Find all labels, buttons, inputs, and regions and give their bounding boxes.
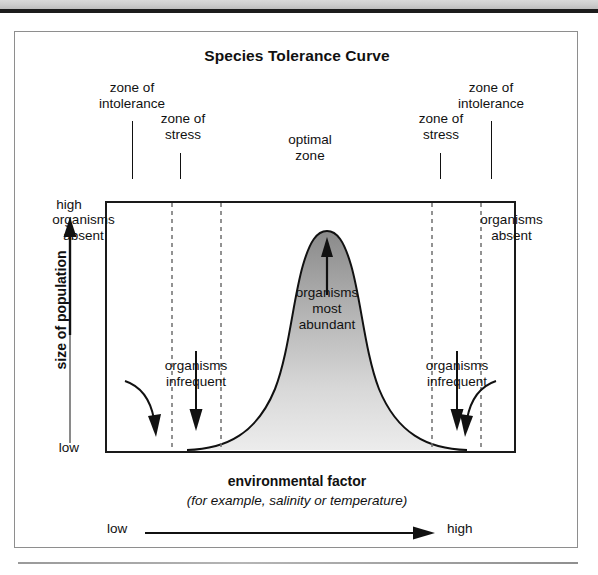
callout-zone-intolerance-right: zone of intolerance [436, 80, 546, 112]
annotation-organisms-most-abundant: organisms most abundant [267, 285, 387, 334]
y-axis-title: size of population [53, 230, 69, 390]
annotation-line: most [267, 301, 387, 317]
annotation-organisms-absent-right: organisms absent [459, 212, 564, 244]
callout-line: intolerance [436, 96, 546, 112]
callout-optimal-zone: optimal zone [255, 132, 365, 164]
x-axis-high-label: high [447, 521, 473, 536]
callout-line: zone of [128, 111, 238, 127]
annotation-line: organisms [459, 212, 564, 228]
plot-area: organisms most abundant organisms infreq… [105, 201, 516, 453]
callout-line: intolerance [77, 96, 187, 112]
callout-line: zone of [77, 80, 187, 96]
callout-line: stress [386, 127, 496, 143]
annotation-line: organisms [397, 358, 516, 374]
leader-line-stress-left [180, 153, 181, 179]
x-axis-subtitle: (for example, salinity or temperature) [15, 493, 579, 508]
annotation-organisms-absent-left: organisms absent [31, 212, 136, 244]
x-axis-arrow-icon [145, 524, 437, 542]
figure-container: Species Tolerance Curve zone of intolera… [14, 31, 578, 548]
annotation-organisms-infrequent-right: organisms infrequent [397, 358, 516, 390]
annotation-line: infrequent [397, 374, 516, 390]
x-axis-low-label: low [107, 521, 127, 536]
callout-line: optimal [255, 132, 365, 148]
x-axis-scale: low high [15, 521, 579, 545]
callout-line: stress [128, 127, 238, 143]
annotation-line: organisms [267, 285, 387, 301]
callout-zone-stress-right: zone of stress [386, 111, 496, 143]
scan-top-rule [0, 9, 598, 13]
callout-line: zone of [386, 111, 496, 127]
x-axis-title: environmental factor [15, 473, 579, 489]
callout-line: zone [255, 148, 365, 164]
page-title: Species Tolerance Curve [15, 47, 579, 65]
scan-top-band [0, 0, 598, 9]
callout-zone-stress-left: zone of stress [128, 111, 238, 143]
annotation-organisms-infrequent-left: organisms infrequent [136, 358, 256, 390]
annotation-line: abundant [267, 317, 387, 333]
y-axis-high-label: high [33, 197, 105, 212]
annotation-line: absent [31, 228, 136, 244]
leader-line-intolerance-right [491, 121, 492, 179]
annotation-line: absent [459, 228, 564, 244]
annotation-line: organisms [136, 358, 256, 374]
annotation-line: infrequent [136, 374, 256, 390]
annotation-line: organisms [31, 212, 136, 228]
callout-line: zone of [436, 80, 546, 96]
callout-zone-intolerance-left: zone of intolerance [77, 80, 187, 112]
scan-bottom-rule [18, 562, 578, 564]
leader-line-stress-right [440, 153, 441, 179]
